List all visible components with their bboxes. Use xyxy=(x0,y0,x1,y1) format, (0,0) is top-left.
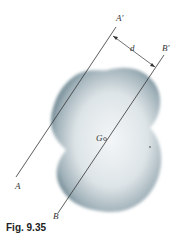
figure-caption: Fig. 9.35 xyxy=(6,222,46,233)
mark-point xyxy=(149,146,151,148)
diagram-canvas xyxy=(0,0,177,241)
label-centroid: G xyxy=(96,134,103,143)
label-a: A xyxy=(15,182,21,191)
label-a-prime: A′ xyxy=(116,14,123,23)
label-distance: d xyxy=(130,44,135,53)
label-b-prime: B′ xyxy=(162,44,169,53)
label-b: B xyxy=(53,212,59,221)
